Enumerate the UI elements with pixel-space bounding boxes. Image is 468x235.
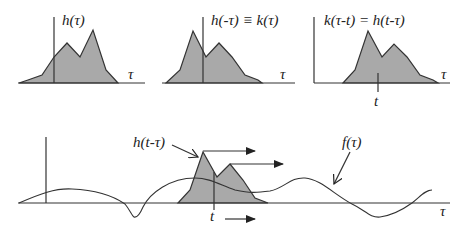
convolution-diagram: h(τ) τ h(-τ) ≡ k(τ) τ k(τ-t) = h(t-τ) τ … (0, 0, 468, 235)
f-tau-label: f(τ) (342, 134, 362, 151)
tau-axis-label: τ (440, 203, 446, 219)
tau-axis-label: τ (441, 66, 447, 82)
panel-h-tau: h(τ) τ (18, 12, 145, 83)
k-shifted-shape (343, 31, 438, 83)
tau-axis-label: τ (128, 66, 134, 82)
panel-convolution: t h(t-τ) f(τ) τ (18, 134, 450, 224)
panel-h-minus-tau: h(-τ) ≡ k(τ) τ (162, 12, 295, 83)
t-label: t (374, 93, 379, 109)
k-tau-label: h(-τ) ≡ k(τ) (211, 12, 279, 29)
h-tau-shape (19, 30, 118, 83)
h-tau-label: h(τ) (62, 12, 85, 29)
panel-k-shifted: k(τ-t) = h(t-τ) τ t (314, 12, 450, 109)
k-tau-shape (166, 31, 262, 83)
h-t-minus-tau-shape (178, 152, 268, 203)
tau-axis-label: τ (280, 66, 286, 82)
k-shifted-label: k(τ-t) = h(t-τ) (324, 12, 405, 29)
signal-pointer-arrow (334, 152, 350, 184)
t-label: t (210, 208, 215, 224)
pulse-pointer-arrow (172, 145, 198, 157)
diagram-svg: h(τ) τ h(-τ) ≡ k(τ) τ k(τ-t) = h(t-τ) τ … (0, 0, 468, 235)
h-t-minus-tau-label: h(t-τ) (133, 134, 165, 151)
